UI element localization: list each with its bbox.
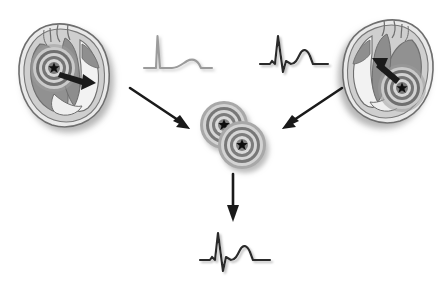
arrow-right-to-center (268, 82, 346, 140)
heart-left-diagram (10, 18, 122, 130)
figure-canvas (0, 0, 446, 290)
arrow-center-to-fusion-ecg (218, 172, 248, 226)
ecg-trace-fusion (198, 226, 274, 278)
center-focus-target-lower (218, 121, 266, 169)
ecg-trace-right (258, 28, 330, 80)
center-dual-foci-targets (192, 96, 274, 174)
heart-left-focus-target (30, 44, 78, 92)
ecg-trace-left (142, 30, 214, 80)
heart-right-diagram (330, 14, 442, 126)
